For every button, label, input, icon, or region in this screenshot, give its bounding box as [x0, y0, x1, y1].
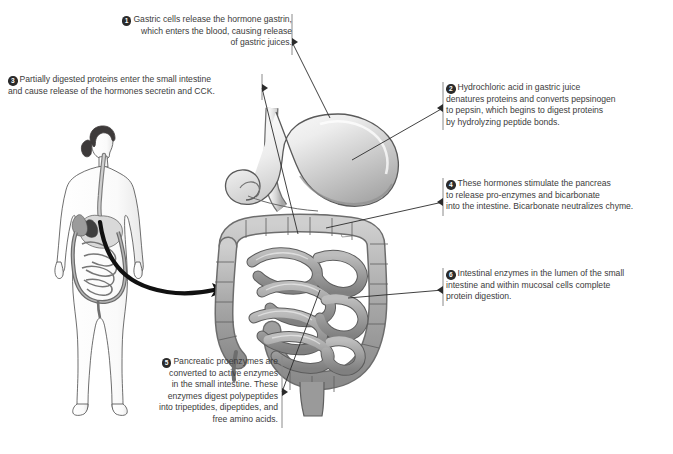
callout-badge-1: 1	[122, 16, 132, 26]
callout-pancreas-bicarbonate: 4These hormones stimulate the pancreas t…	[446, 178, 664, 213]
callout-secretin-cck-text: 3Partially digested proteins enter the s…	[8, 74, 260, 97]
callout-gastrin: 1Gastric cells release the hormone gastr…	[96, 14, 292, 49]
callout-secretin-cck: 3Partially digested proteins enter the s…	[8, 74, 260, 97]
callout-badge-3: 3	[8, 76, 18, 86]
callout-intestinal-enzymes-body: Intestinal enzymes in the lumen of the s…	[446, 268, 624, 301]
callout-intestinal-enzymes-text: 6Intestinal enzymes in the lumen of the …	[446, 268, 658, 303]
organ-stomach	[225, 112, 398, 211]
callout-badge-6: 6	[446, 270, 456, 280]
callout-pancreatic-proenzymes-body: Pancreatic proenzymes are converted to a…	[159, 356, 278, 424]
callout-hydrochloric-acid-text: 2Hydrochloric acid in gastric juice dena…	[446, 82, 658, 128]
callout-intestinal-enzymes: 6Intestinal enzymes in the lumen of the …	[446, 268, 658, 303]
anatomy-illustration	[0, 0, 673, 454]
callout-pancreatic-proenzymes-text: 5Pancreatic proenzymes are converted to …	[118, 356, 278, 426]
callout-pancreas-bicarbonate-body: These hormones stimulate the pancreas to…	[446, 178, 633, 211]
callout-pancreatic-proenzymes: 5Pancreatic proenzymes are converted to …	[118, 356, 278, 426]
callout-gastrin-text: 1Gastric cells release the hormone gastr…	[96, 14, 292, 49]
callout-secretin-cck-body: Partially digested proteins enter the sm…	[8, 74, 215, 96]
callout-badge-2: 2	[446, 84, 456, 94]
callout-badge-5: 5	[162, 358, 172, 368]
callout-badge-4: 4	[446, 180, 456, 190]
callout-hydrochloric-acid: 2Hydrochloric acid in gastric juice dena…	[446, 82, 658, 128]
callout-gastrin-body: Gastric cells release the hormone gastri…	[133, 14, 292, 47]
callout-hydrochloric-acid-body: Hydrochloric acid in gastric juice denat…	[446, 82, 616, 127]
callout-pancreas-bicarbonate-text: 4These hormones stimulate the pancreas t…	[446, 178, 664, 213]
